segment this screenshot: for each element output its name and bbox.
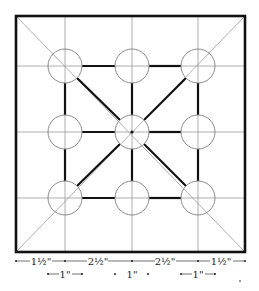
tick-mark: [114, 273, 116, 275]
construction-lines: [16, 16, 245, 252]
dim-label-2-5-left: 2½": [88, 256, 109, 267]
spoke-top-left: [77, 78, 120, 120]
tick-mark: [214, 273, 216, 275]
dim-label-1in-right: 1": [193, 269, 204, 280]
spoke-top-right: [144, 78, 186, 120]
tick-mark: [64, 260, 66, 262]
board-diagram: 1½" 2½" 2½" 1½" 1" 1" 1": [0, 0, 259, 291]
dim-label-1-5-right: 1½": [211, 256, 232, 267]
spoke-bottom-left: [77, 144, 120, 186]
dim-label-1in-center: 1": [127, 269, 138, 280]
tick-mark: [131, 260, 133, 262]
tick-mark: [197, 260, 199, 262]
tick-mark: [15, 260, 17, 262]
tick-mark: [81, 273, 83, 275]
dim-label-1in-left: 1": [60, 269, 71, 280]
spoke-bottom-right: [144, 144, 186, 186]
tick-mark: [244, 260, 246, 262]
tick-mark: [47, 273, 49, 275]
tick-mark: [180, 273, 182, 275]
dim-label-1-5-left: 1½": [31, 256, 52, 267]
tick-mark: [147, 273, 149, 275]
center-dot: [130, 130, 133, 133]
dim-label-2-5-right: 2½": [155, 256, 176, 267]
stray-dot: [239, 280, 241, 282]
